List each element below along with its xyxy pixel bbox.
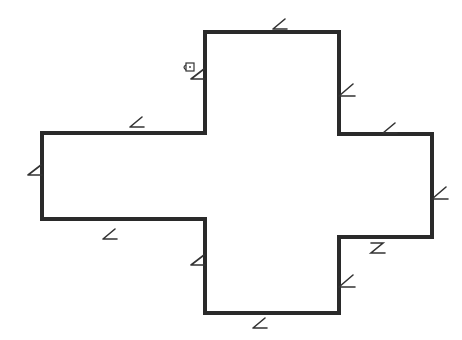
right-arm-top-angle-icon[interactable]	[383, 123, 397, 133]
left-arm-top-angle-icon[interactable]	[130, 117, 144, 127]
bottom-edge-angle-icon[interactable]	[253, 318, 267, 328]
right-lower-vertical-angle-icon[interactable]	[339, 275, 355, 287]
left-arm-end-angle-icon[interactable]	[28, 165, 42, 175]
lock-icon[interactable]	[184, 63, 194, 71]
left-arm-bottom-angle-icon[interactable]	[103, 229, 117, 239]
floor-plan-svg	[0, 0, 462, 340]
right-upper-vertical-angle-icon[interactable]	[339, 84, 355, 96]
top-edge-angle-icon[interactable]	[273, 19, 287, 29]
left-lower-vertical-angle-icon[interactable]	[191, 255, 205, 265]
right-arm-bottom-angle-icon[interactable]	[371, 243, 385, 253]
diagram-canvas	[0, 0, 462, 340]
room-outline[interactable]	[42, 32, 432, 313]
right-arm-end-angle-icon[interactable]	[432, 187, 448, 199]
